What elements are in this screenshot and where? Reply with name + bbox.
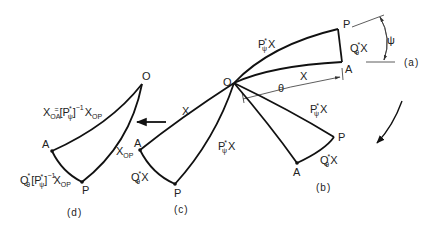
- label-psx-b: P*ψX: [310, 102, 328, 118]
- panel-a: θ ψ P A O P*ψX X Q*θX (a): [223, 15, 419, 103]
- point-p-d: P: [82, 184, 89, 196]
- caption-d: (d): [67, 207, 82, 218]
- panel-b: P A P*ψX Q*θX (b): [234, 83, 345, 193]
- origin-o-d: O: [142, 70, 151, 82]
- label-qx-c: Q*θX: [131, 170, 149, 185]
- point-a-a: A: [345, 63, 353, 75]
- label-psx-a: P*ψX: [258, 37, 276, 53]
- caption-a: (a): [404, 57, 419, 68]
- label-x-a: X: [300, 70, 308, 82]
- psi-label: ψ: [387, 34, 395, 46]
- caption-b: (b): [316, 182, 331, 193]
- label-psx-c: P*ψX: [218, 139, 236, 155]
- edge-o-a-b: [234, 83, 297, 163]
- rotation-arrow-icon: [377, 101, 402, 143]
- label-xop-d: XOP: [116, 145, 134, 159]
- edge-o-p-d: [82, 84, 142, 182]
- point-p-a: P: [343, 18, 350, 30]
- label-qx-a: Q*θX: [350, 41, 368, 56]
- point-p-c: P: [174, 187, 181, 199]
- label-qx-b: Q*θX: [320, 153, 338, 168]
- point-a-c: A: [134, 137, 142, 149]
- panel-d: O A P XOA=[P*ψ]−1XOP XOP Q*θ[P*ψ]−1XOP (…: [20, 70, 151, 218]
- edge-o-p-a: [234, 29, 338, 83]
- label-qpx-d: Q*θ[P*ψ]−1XOP: [20, 172, 71, 189]
- label-xoa-d: XOA=[P*ψ]−1XOP: [43, 104, 103, 121]
- theta-label: θ: [278, 82, 284, 94]
- panel-c: A P X P*ψX Q*θX (c): [131, 83, 236, 215]
- point-p-b: P: [338, 131, 345, 143]
- rotation-diagram: θ ψ P A O P*ψX X Q*θX (a) P A P*ψX: [0, 0, 437, 229]
- label-x-c: X: [182, 105, 190, 117]
- point-a-b: A: [293, 166, 301, 178]
- caption-c: (c): [174, 204, 189, 215]
- edge-a-p-a: [338, 29, 342, 62]
- point-a-d: A: [42, 138, 50, 150]
- edge-o-p-c: [175, 83, 234, 184]
- theta-arc: [243, 77, 340, 99]
